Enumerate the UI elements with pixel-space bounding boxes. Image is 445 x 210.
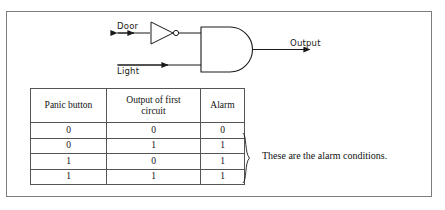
truth-table: Panic button Output of first circuit Ala… (30, 88, 245, 185)
table-row: 0 1 1 (31, 138, 245, 154)
cell-alarm-r3: 1 (201, 154, 245, 170)
table-row: 1 0 1 (31, 154, 245, 170)
cell-alarm-r2: 1 (201, 138, 245, 154)
cell-firstcircuit-r3: 0 (107, 154, 201, 170)
table-header-row: Panic button Output of first circuit Ala… (31, 89, 245, 123)
not-gate (151, 22, 179, 44)
cell-alarm-r1: 0 (201, 123, 245, 139)
and-gate (201, 27, 253, 72)
cell-panic-r2: 0 (31, 138, 107, 154)
figure-root: Door Light Output Panic button Output of… (0, 0, 445, 210)
alarm-conditions-annotation: These are the alarm conditions. (262, 150, 387, 161)
column-header-output-line2: circuit (141, 106, 165, 116)
output-label: Output (290, 38, 321, 48)
table-row: 0 0 0 (31, 123, 245, 139)
column-header-output-line1: Output of first (126, 95, 180, 105)
cell-alarm-r4: 1 (201, 169, 245, 185)
column-header-panic-button-line1: Panic button (45, 100, 93, 110)
cell-panic-r4: 1 (31, 169, 107, 185)
table-row: 1 1 1 (31, 169, 245, 185)
cell-panic-r3: 1 (31, 154, 107, 170)
column-header-output-of-first-circuit: Output of first circuit (107, 89, 201, 123)
light-input-label: Light (117, 66, 139, 76)
column-header-panic-button: Panic button (31, 89, 107, 123)
column-header-alarm-line1: Alarm (210, 100, 234, 110)
cell-firstcircuit-r1: 0 (107, 123, 201, 139)
curly-brace-icon (242, 133, 254, 183)
column-header-alarm: Alarm (201, 89, 245, 123)
cell-panic-r1: 0 (31, 123, 107, 139)
door-input-label: Door (117, 21, 138, 31)
cell-firstcircuit-r2: 1 (107, 138, 201, 154)
cell-firstcircuit-r4: 1 (107, 169, 201, 185)
